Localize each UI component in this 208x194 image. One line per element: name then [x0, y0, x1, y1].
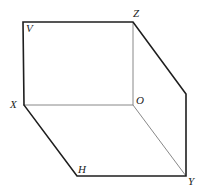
label-o: O — [136, 94, 144, 106]
label-h: H — [77, 163, 87, 175]
plane-outline — [23, 22, 186, 176]
projection-planes-diagram: V Z X O H Y — [0, 0, 208, 194]
label-z: Z — [133, 7, 140, 19]
label-v: V — [26, 22, 34, 34]
axis-oy — [133, 105, 186, 176]
label-x: X — [9, 98, 18, 110]
label-y: Y — [188, 175, 196, 187]
